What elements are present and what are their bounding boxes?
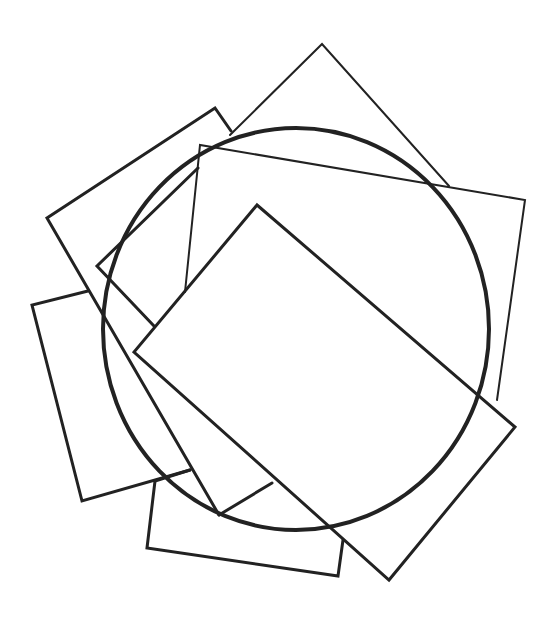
figure-canvas xyxy=(0,0,557,619)
geometric-line-drawing xyxy=(0,0,557,619)
bottom-left-rectangle xyxy=(32,291,190,501)
circle xyxy=(103,128,489,530)
top-right-rectangle xyxy=(185,145,525,400)
inner-rectangle xyxy=(97,168,198,326)
top-diamond xyxy=(230,44,449,186)
left-rectangle-bottom-edge xyxy=(219,483,272,515)
front-rectangle xyxy=(134,205,515,580)
